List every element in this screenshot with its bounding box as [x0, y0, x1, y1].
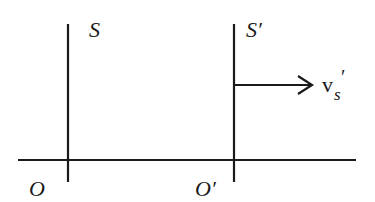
velocity-subscript: s: [334, 85, 341, 104]
velocity-prime: ′: [341, 66, 345, 88]
velocity-arrow-icon: [234, 76, 312, 94]
reference-frames-diagram: S S′ O O′ v s ′: [0, 0, 375, 202]
velocity-symbol: v: [322, 72, 333, 97]
origin-o-prime-label: O′: [195, 176, 217, 201]
origin-o-label: O: [29, 176, 45, 201]
frame-s-label: S: [89, 17, 100, 42]
frame-s-prime-label: S′: [246, 17, 263, 42]
velocity-label: v s ′: [322, 66, 345, 104]
